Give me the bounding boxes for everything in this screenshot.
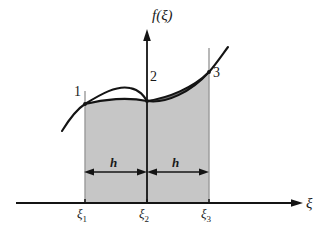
y-axis-label: f(ξ) (152, 8, 173, 23)
tick-label-xi2-sub: 2 (145, 214, 150, 224)
y-axis-arrowhead (143, 29, 151, 41)
node-marker-2 (145, 99, 149, 103)
tick-label-xi3: ξ3 (201, 207, 211, 224)
node-marker-3 (207, 70, 211, 74)
spacing-label-left: h (110, 156, 117, 169)
tick-label-xi1-sub: 1 (83, 214, 88, 224)
x-axis-arrowhead (291, 199, 303, 207)
shaded-region-left (85, 99, 147, 203)
node-label-3: 3 (213, 66, 220, 80)
node-label-2: 2 (150, 70, 157, 84)
tick-label-xi1: ξ1 (77, 207, 87, 224)
node-label-1: 1 (74, 85, 81, 99)
simpsons-rule-figure: f(ξ) ξ 1 2 3 h h ξ1 ξ2 ξ3 (0, 0, 328, 240)
tick-label-xi3-sub: 3 (207, 214, 212, 224)
figure-canvas (0, 0, 328, 240)
x-axis-label: ξ (306, 196, 312, 211)
tick-label-xi2: ξ2 (139, 207, 149, 224)
node-marker-1 (83, 102, 87, 106)
spacing-label-right: h (172, 156, 179, 169)
